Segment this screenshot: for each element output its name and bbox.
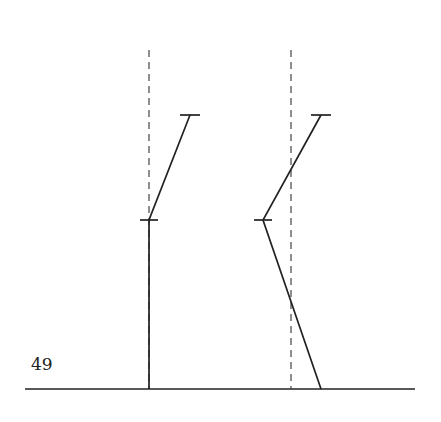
page-number: 49 (31, 354, 53, 374)
right-profile-line (263, 115, 321, 389)
diagram-figure (0, 0, 441, 422)
left-profile-line (149, 115, 190, 389)
